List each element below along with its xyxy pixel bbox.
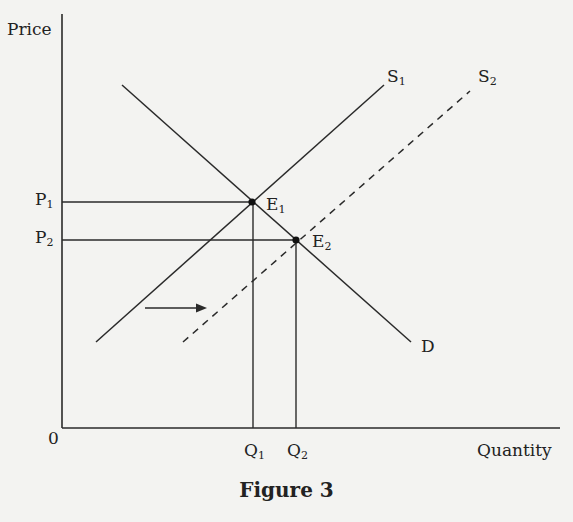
figure-caption: Figure 3 — [0, 478, 573, 502]
shift-arrow-icon — [145, 304, 207, 313]
origin-label: 0 — [48, 430, 59, 447]
q1-label: Q1 — [244, 442, 265, 461]
s1-label: S1 — [387, 68, 406, 87]
equilibrium-point-e2 — [292, 236, 299, 243]
p2-label: P2 — [35, 229, 53, 248]
p1-label: P1 — [35, 191, 53, 210]
e1-label: E1 — [266, 196, 285, 215]
supply-curve-s2 — [183, 91, 470, 342]
supply-curve-s1 — [96, 85, 384, 342]
s2-label: S2 — [478, 68, 497, 87]
demand-label: D — [421, 338, 435, 355]
equilibrium-point-e1 — [248, 198, 255, 205]
q2-label: Q2 — [287, 442, 308, 461]
x-axis-label: Quantity — [477, 442, 552, 459]
e2-label: E2 — [312, 233, 331, 252]
y-axis-label: Price — [7, 21, 52, 38]
